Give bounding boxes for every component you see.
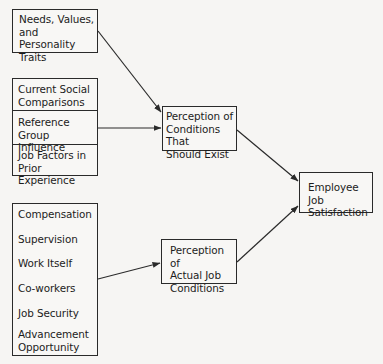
node-job-facets: Compensation Supervision Work Itself Co-… (12, 203, 98, 356)
arrow-actual-to-satisfaction (237, 206, 298, 262)
arrow-needs-to-should-exist (98, 31, 161, 112)
item-compensation: Compensation (13, 208, 97, 221)
item-current-social-comparisons: Current Social Comparisons (13, 83, 97, 108)
node-label: Needs, Values, and Personality Traits (19, 13, 97, 63)
node-perception-should-exist: Perception of Conditions That Should Exi… (162, 106, 237, 151)
node-label: Perception of Conditions That Should Exi… (166, 110, 236, 160)
node-social-influences: Current Social Comparisons Reference Gro… (12, 78, 98, 176)
node-label: Employee Job Satisfaction (308, 181, 372, 219)
node-label: Perception of Actual Job Conditions (170, 244, 236, 294)
item-reference-group-influence: Reference Group Influence (13, 116, 97, 154)
item-supervision: Supervision (13, 233, 97, 246)
item-work-itself: Work Itself (13, 257, 97, 270)
item-co-workers: Co-workers (13, 282, 97, 295)
node-needs-values-traits: Needs, Values, and Personality Traits (12, 9, 98, 53)
divider (13, 110, 97, 111)
item-job-factors-prior-experience: Job Factors in Prior Experience (13, 149, 97, 187)
arrow-should-exist-to-satisfaction (237, 130, 298, 181)
node-perception-actual-conditions: Perception of Actual Job Conditions (161, 239, 237, 284)
item-advancement-opportunity: Advancement Opportunity (13, 328, 97, 353)
item-job-security: Job Security (13, 307, 97, 320)
node-employee-job-satisfaction: Employee Job Satisfaction (299, 172, 373, 213)
divider (13, 144, 97, 145)
arrow-facets-to-actual (98, 263, 160, 279)
